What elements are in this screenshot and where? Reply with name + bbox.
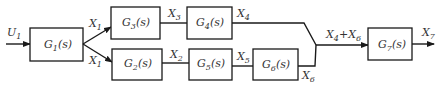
block-g7-label: G7(s) xyxy=(378,38,406,53)
block-g5-label: G5(s) xyxy=(197,57,225,72)
signal-x5: X5 xyxy=(236,50,250,65)
signal-x3: X3 xyxy=(167,7,181,22)
line-x4 xyxy=(232,23,316,45)
signal-x4: X4 xyxy=(236,7,250,22)
block-g4-label: G4(s) xyxy=(196,16,224,31)
signal-x1-bottom: X1 xyxy=(88,54,102,69)
signal-x2: X2 xyxy=(169,48,183,63)
input-label: U1 xyxy=(7,26,21,41)
line-x6 xyxy=(298,45,316,66)
block-g3-label: G3(s) xyxy=(122,16,150,31)
signal-x4-plus-x6: X4+X6 xyxy=(325,28,361,43)
signal-x6: X6 xyxy=(301,69,315,84)
signal-x1-top: X1 xyxy=(88,17,102,32)
block-diagram: U1 G1(s) X1 X1 G3(s) X3 G4(s) X4 G2(s) X… xyxy=(0,0,444,90)
block-g6-label: G6(s) xyxy=(262,58,290,73)
signal-x7: X7 xyxy=(421,26,436,41)
block-g1-label: G1(s) xyxy=(44,38,72,53)
block-g2-label: G2(s) xyxy=(124,57,152,72)
